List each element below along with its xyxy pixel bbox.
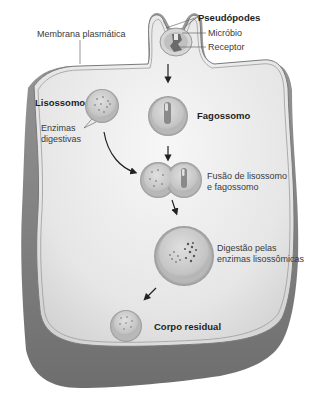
label-digestion-line2: enzimas lisossômicas [217,254,304,264]
digestion-vesicle [154,226,214,286]
label-digestive-enzymes-line2: digestivas [41,134,81,144]
phagosome [148,96,188,136]
label-digestive-enzymes: Enzimas digestivas [41,123,81,145]
lysosome [85,89,119,123]
label-fusion-line1: Fusão de lisossomo [207,171,287,181]
label-plasma-membrane: Membrana plasmática [37,29,126,40]
label-fusion-line2: e fagossomo [207,182,259,192]
label-microbe: Micróbio [208,28,242,39]
label-phagosome: Fagossomo [197,110,250,121]
label-residual-body: Corpo residual [154,321,221,332]
pseudopods-group [160,28,192,56]
residual-body [110,310,142,342]
label-receptor: Receptor [208,42,245,53]
label-lysosome: Lisossomo [35,97,85,108]
label-digestive-enzymes-line1: Enzimas [41,123,76,133]
label-digestion-line1: Digestão pelas [217,243,277,253]
label-pseudopods: Pseudópodes [198,12,260,23]
phagocytosis-diagram [0,0,319,401]
label-fusion: Fusão de lisossomo e fagossomo [207,171,287,193]
label-digestion: Digestão pelas enzimas lisossômicas [217,243,304,265]
